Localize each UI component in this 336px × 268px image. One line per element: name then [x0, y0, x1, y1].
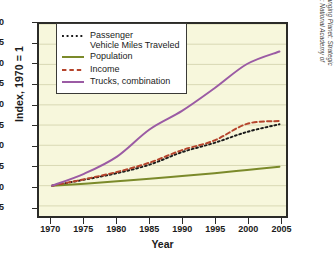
legend-label: Trucks, combination — [90, 76, 170, 86]
y-tick-mark — [32, 43, 37, 44]
y-tick-mark — [32, 208, 37, 209]
y-tick-label: 3.0 — [0, 100, 4, 109]
x-tick-mark — [83, 218, 84, 224]
legend-item: Population — [61, 51, 180, 62]
chart-figure: Index, 1970 = 1 0.51.01.52.02.53.03.54.0… — [0, 0, 336, 268]
legend-swatch-3 — [61, 76, 85, 87]
x-tick-mark — [281, 218, 282, 224]
x-tick-mark — [182, 218, 183, 224]
x-axis-title: Year — [37, 238, 288, 250]
legend-label: Population — [90, 51, 133, 61]
y-tick-label: 4.0 — [0, 59, 4, 68]
y-tick-label: 2.0 — [0, 141, 4, 150]
legend-swatch-0 — [61, 30, 85, 41]
series-line-1 — [52, 167, 279, 186]
legend-swatch-1 — [61, 51, 85, 62]
y-tick-mark — [32, 146, 37, 147]
y-tick-label: 5.0 — [0, 18, 4, 27]
y-tick-mark — [32, 105, 37, 106]
y-axis-title: Index, 1970 = 1 — [13, 29, 25, 139]
x-tick-mark — [50, 218, 51, 224]
x-tick-mark — [248, 218, 249, 224]
y-tick-mark — [32, 22, 37, 23]
y-tick-mark — [32, 166, 37, 167]
y-tick-label: 0.5 — [0, 203, 4, 212]
y-tick-mark — [32, 125, 37, 126]
legend: Passenger Vehicle Miles TraveledPopulati… — [56, 23, 187, 94]
y-tick-mark — [32, 187, 37, 188]
series-line-2 — [52, 121, 279, 186]
legend-item: Income — [61, 64, 180, 75]
y-tick-label: 3.5 — [0, 79, 4, 88]
x-tick-label: 2005 — [261, 224, 301, 234]
legend-swatch-2 — [61, 64, 85, 75]
y-tick-label: 2.5 — [0, 121, 4, 130]
x-tick-mark — [149, 218, 150, 224]
x-tick-mark — [215, 218, 216, 224]
legend-label: Passenger Vehicle Miles Traveled — [90, 30, 180, 50]
credit-text: Courtesy of: Murphy, A. et al. 2010. Und… — [294, 0, 334, 86]
plot-figure: Index, 1970 = 1 0.51.01.52.02.53.03.54.0… — [0, 0, 296, 268]
y-tick-label: 1.5 — [0, 162, 4, 171]
legend-label: Income — [90, 64, 120, 74]
y-tick-mark — [32, 84, 37, 85]
y-tick-mark — [32, 63, 37, 64]
legend-item: Passenger Vehicle Miles Traveled — [61, 30, 180, 50]
x-tick-mark — [116, 218, 117, 224]
y-tick-label: 1.0 — [0, 183, 4, 192]
y-tick-label: 4.5 — [0, 38, 4, 47]
legend-item: Trucks, combination — [61, 76, 180, 87]
